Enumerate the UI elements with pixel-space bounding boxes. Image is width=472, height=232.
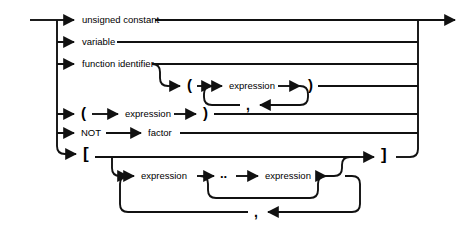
alternative-not-factor: NOT factor xyxy=(57,127,418,138)
label-expression-call-arg: expression xyxy=(229,80,275,91)
label-lparen-group: ( xyxy=(81,104,86,121)
right-collection-rail xyxy=(410,20,455,157)
label-rparen-call: ) xyxy=(308,76,313,93)
alternative-unsigned-constant: unsigned constant xyxy=(57,14,418,25)
railroad-diagram-root: unsigned constant variable function iden… xyxy=(0,0,472,232)
label-lbracket: [ xyxy=(83,144,89,163)
label-expression-set-hi: expression xyxy=(265,170,311,181)
alternative-variable: variable xyxy=(57,36,418,47)
label-comma-set: , xyxy=(254,204,258,220)
label-expression-group: expression xyxy=(125,108,171,119)
label-rparen-group: ) xyxy=(203,104,208,121)
alternative-set-constructor: [ ] expression .. expression , xyxy=(65,144,410,219)
label-function-identifier: function identifier xyxy=(82,58,154,69)
label-expression-set-lo: expression xyxy=(141,170,187,181)
label-factor: factor xyxy=(148,127,172,138)
alternative-parenthesized-expression: ( expression ) xyxy=(57,104,418,121)
label-comma-call: , xyxy=(246,97,250,113)
label-unsigned-constant: unsigned constant xyxy=(82,14,159,25)
label-range-dots: .. xyxy=(220,166,227,181)
label-rbracket: ] xyxy=(381,145,387,164)
label-variable: variable xyxy=(82,36,115,47)
railroad-diagram-svg: unsigned constant variable function iden… xyxy=(0,0,472,232)
alternative-function-call: function identifier ( expression ) , xyxy=(57,58,418,113)
label-lparen-call: ( xyxy=(187,76,192,93)
label-not-keyword: NOT xyxy=(81,127,101,138)
